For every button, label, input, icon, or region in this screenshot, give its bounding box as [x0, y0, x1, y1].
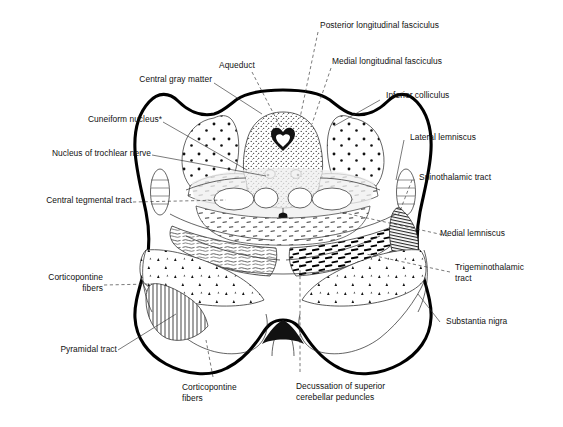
lemniscus-oval-left-outer [214, 188, 254, 210]
label-trigeminothalamic-tract-line2: tract [455, 273, 472, 284]
label-corticopontine-fibers-bottom-line2: fibers [182, 393, 203, 404]
label-cuneiform-nucleus: Cuneiform nucleus* [0, 114, 162, 125]
midbrain-cross-section-figure: Central gray matter Cuneiform nucleus* N… [0, 0, 563, 427]
label-central-gray-matter: Central gray matter [0, 74, 212, 85]
lemniscus-oval-right-inner [288, 188, 312, 208]
label-posterior-longitudinal-fasciculus: Posterior longitudinal fasciculus [320, 20, 439, 31]
label-trigeminothalamic-tract-line1: Trigeminothalamic [455, 262, 524, 273]
label-corticopontine-fibers-bottom-line1: Corticopontine [182, 382, 237, 393]
label-lateral-lemniscus: Lateral lemniscus [410, 132, 476, 143]
label-pyramidal-tract: Pyramidal tract [0, 344, 117, 355]
label-corticopontine-fibers-left-line2: fibers [0, 283, 103, 294]
label-aqueduct: Aqueduct [219, 60, 255, 71]
label-inferior-colliculus: Inferior colliculus [386, 90, 449, 101]
lemniscus-oval-left-inner [254, 188, 278, 208]
label-substantia-nigra: Substantia nigra [446, 316, 507, 327]
label-spinothalamic-tract: Spinothalamic tract [419, 172, 491, 183]
label-corticopontine-fibers-left-line1: Corticopontine [0, 272, 103, 283]
label-medial-lemniscus: Medial lemniscus [440, 228, 505, 239]
label-medial-longitudinal-fasciculus: Medial longitudinal fasciculus [332, 56, 442, 67]
lemniscus-oval-right-outer [312, 188, 352, 210]
lateral-lemniscus-left [151, 169, 170, 215]
label-decussation-line1: Decussation of superior [296, 381, 385, 392]
label-decussation-line2: cerebellar peduncles [296, 392, 374, 403]
label-central-tegmental-tract: Central tegmental tract [0, 195, 132, 206]
anatomy-drawing [0, 0, 563, 427]
label-nucleus-of-trochlear-nerve: Nucleus of trochlear nerve [0, 148, 151, 159]
